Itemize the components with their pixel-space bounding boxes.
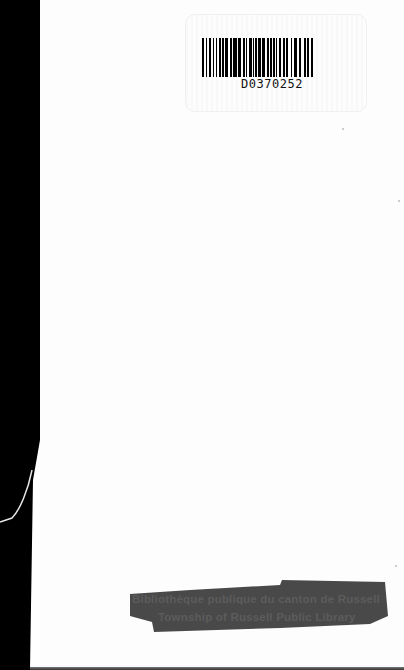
stamp-line-english: Township of Russell Public Library: [158, 611, 356, 623]
scan-speck: [395, 565, 397, 567]
library-stamp: Bibliothèque publique du canton de Russe…: [130, 580, 388, 634]
barcode-gap: [313, 38, 314, 77]
page-curl-edge: [0, 470, 36, 530]
scan-speck: [342, 128, 344, 130]
scan-left-border: [0, 0, 40, 670]
stamp-line-french: Bibliothèque publique du canton de Russe…: [132, 593, 380, 605]
scan-speck: [398, 200, 400, 202]
barcode-number: D0370252: [232, 77, 312, 91]
marker-redaction: [130, 580, 388, 634]
barcode: [202, 38, 342, 77]
